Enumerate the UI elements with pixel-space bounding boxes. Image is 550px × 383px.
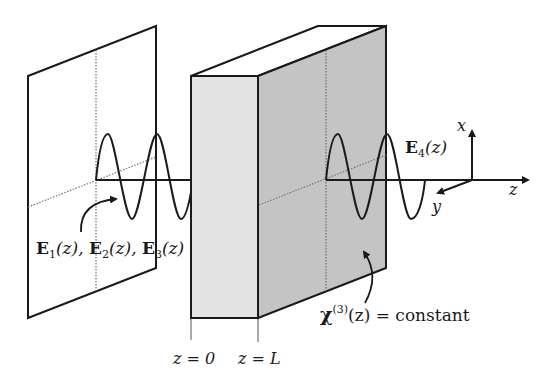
x-axis-label: x bbox=[457, 116, 466, 135]
y-axis-arrow bbox=[438, 180, 472, 193]
input-fields-label: E1(z), E2(z), E3(z) bbox=[36, 238, 184, 261]
coordinate-axes: x y z bbox=[431, 116, 518, 216]
block-front-face bbox=[191, 76, 258, 318]
output-field-label: E4(z) bbox=[405, 137, 447, 160]
nonlinear-medium-block bbox=[191, 26, 386, 318]
four-wave-mixing-diagram: x y z E1(z), E2(z), E3(z) E4(z) χ(3)(z) … bbox=[0, 0, 550, 383]
z0-label: z = 0 bbox=[172, 349, 215, 368]
z-axis-label: z bbox=[508, 180, 518, 199]
y-axis-label: y bbox=[431, 197, 442, 216]
susceptibility-label: χ(3)(z) = constant bbox=[320, 303, 470, 325]
block-side-face bbox=[258, 26, 386, 318]
input-plane bbox=[28, 26, 156, 318]
zL-label: z = L bbox=[237, 349, 281, 368]
